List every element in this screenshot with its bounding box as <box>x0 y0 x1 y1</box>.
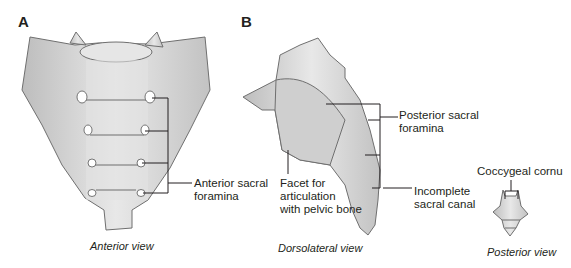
caption-dorsolateral-view: Dorsolateral view <box>278 242 362 254</box>
label-anterior-sacral-foramina: Anterior sacral foramina <box>194 177 268 203</box>
sacrum-illustration <box>0 0 571 268</box>
panel-letter-b: B <box>241 13 252 30</box>
caption-anterior-view: Anterior view <box>90 240 154 252</box>
label-coccygeal-cornu: Coccygeal cornu <box>477 165 563 178</box>
panel-letter-a: A <box>18 13 29 30</box>
coccyx <box>493 190 528 236</box>
label-facet-for-articulation: Facet for articulation with pelvic bone <box>280 177 362 216</box>
anterior-sacrum <box>22 32 210 230</box>
label-posterior-sacral-foramina: Posterior sacral foramina <box>399 109 479 135</box>
caption-posterior-view: Posterior view <box>487 246 556 258</box>
label-incomplete-sacral-canal: Incomplete sacral canal <box>414 185 475 211</box>
